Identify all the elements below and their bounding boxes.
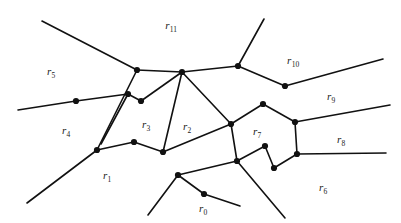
graph-vertex [131,139,137,145]
region-label-r1: r1 [103,169,111,181]
region-label-subscript: 1 [108,175,112,184]
edge-to-right-top-out [285,59,383,86]
edge-to-bottom-out [237,161,285,218]
region-label-r6: r6 [319,181,327,193]
graph-vertex [73,98,79,104]
region-label-subscript: 3 [147,124,151,133]
edge-to-right-flat-out [297,153,386,154]
planar-graph-figure: r0r1r2r3r4r5r6r7r8r9r10r11 [0,0,401,223]
region-label-base: r [62,124,66,136]
region-label-r3: r3 [142,118,150,130]
graph-edge [295,122,297,154]
region-label-subscript: 10 [292,60,300,69]
graph-vertex [228,121,234,127]
graph-edge [265,146,274,168]
graph-edge [76,94,128,101]
region-label-base: r [253,125,257,137]
region-label-base: r [337,133,341,145]
graph-edge [238,66,285,86]
region-label-base: r [287,54,291,66]
graph-edge [137,70,182,72]
edge-to-left-top [42,21,137,70]
graph-edge [182,66,238,72]
region-label-subscript: 9 [332,96,336,105]
region-label-r10: r10 [287,54,299,66]
region-label-r7: r7 [253,125,261,137]
graph-canvas [0,0,401,223]
graph-vertex [138,98,144,104]
region-label-base: r [142,118,146,130]
graph-edge [274,154,297,168]
region-label-r2: r2 [183,120,191,132]
graph-edge [97,142,134,150]
graph-vertex [262,143,268,149]
edge-to-left-mid-out [18,101,76,110]
graph-edge [178,161,237,175]
region-label-r8: r8 [337,133,345,145]
region-label-subscript: 6 [324,187,328,196]
graph-vertex [294,151,300,157]
graph-edge [231,124,237,161]
graph-edge [231,104,263,124]
region-label-subscript: 2 [188,126,192,135]
region-label-base: r [103,169,107,181]
region-label-r11: r11 [165,19,177,31]
edge-to-bottom-right-out [204,194,240,206]
graph-edge [97,70,137,150]
edge-to-lower-left-out [27,150,97,203]
graph-vertex [260,101,266,107]
edge-to-right-mid-out [295,105,390,122]
graph-vertex [94,147,100,153]
graph-vertex [134,67,140,73]
graph-vertex [271,165,277,171]
graph-vertex [175,172,181,178]
region-label-r4: r4 [62,124,70,136]
region-label-base: r [319,181,323,193]
region-label-subscript: 11 [170,25,177,34]
graph-vertex [179,69,185,75]
region-label-subscript: 4 [67,130,71,139]
edge-to-upper-out [238,19,264,66]
edge-to-zig-a-out [101,94,128,144]
region-label-r5: r5 [47,65,55,77]
region-label-subscript: 7 [258,131,262,140]
graph-edge [134,142,163,152]
edge-to-bottom-left-out [148,175,178,215]
graph-vertex [234,158,240,164]
graph-edge [163,124,231,152]
open-edges-layer [18,19,390,218]
graph-edge [178,175,204,194]
region-label-base: r [165,19,169,31]
region-label-base: r [327,90,331,102]
region-label-r9: r9 [327,90,335,102]
region-label-subscript: 5 [52,71,56,80]
graph-vertex [125,91,131,97]
graph-edge [263,104,295,122]
region-label-base: r [47,65,51,77]
graph-edge [182,72,231,124]
graph-vertex [292,119,298,125]
graph-vertex [282,83,288,89]
graph-edge [237,146,265,161]
graph-vertex [160,149,166,155]
graph-vertex [235,63,241,69]
graph-vertex [201,191,207,197]
region-label-base: r [199,202,203,214]
region-label-subscript: 0 [204,208,208,217]
region-label-subscript: 8 [342,139,346,148]
region-label-base: r [183,120,187,132]
region-label-r0: r0 [199,202,207,214]
